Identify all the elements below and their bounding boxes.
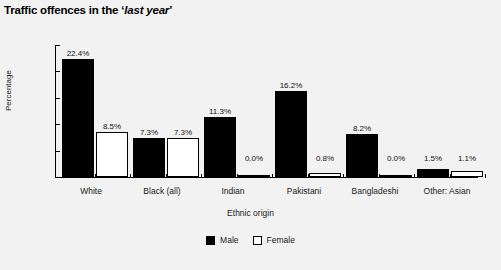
bar-otherasian-female[interactable]: [451, 171, 483, 177]
bar-label-indian-male: 11.3%: [198, 107, 242, 116]
chart-figure: Traffic offences in the ‘last year’ Perc…: [0, 0, 501, 270]
y-axis-title: Percentage: [4, 70, 13, 111]
x-tick-2: [166, 174, 167, 178]
x-tick-6: [308, 174, 309, 178]
x-axis-title: Ethnic origin: [0, 208, 501, 218]
category-label-otherasian: Other: Asian: [409, 186, 485, 196]
legend-swatch-female-icon: [253, 236, 262, 245]
category-label-white: White: [54, 186, 128, 196]
plot-area: 0% 5% 10% 15% 20% 25% 22.4% 8.5% 7.3% 7.…: [55, 45, 478, 178]
x-tick-4: [237, 174, 238, 178]
bar-label-black-female: 7.3%: [161, 128, 205, 137]
bar-black-female[interactable]: [167, 138, 199, 177]
chart-legend: Male Female: [0, 235, 501, 245]
bar-label-otherasian-female: 1.1%: [445, 154, 489, 163]
chart-title-quote-close: ’: [169, 4, 172, 16]
category-label-bangladeshi: Bangladeshi: [338, 186, 412, 196]
bar-series-container: 22.4% 8.5% 7.3% 7.3% 11.3% 0.0% 16.2% 0.…: [56, 45, 478, 177]
legend-swatch-male-icon: [206, 236, 215, 245]
category-label-black: Black (all): [125, 186, 199, 196]
x-tick-0: [95, 174, 96, 178]
bar-pakistani-female[interactable]: [309, 173, 341, 177]
page-title: Traffic offences in the ‘last year’: [4, 4, 172, 16]
bar-label-pakistani-female: 0.8%: [303, 154, 347, 163]
x-tick-11: [485, 174, 486, 178]
bar-pakistani-male[interactable]: [275, 91, 307, 177]
chart-title-emphasis: last year: [124, 4, 169, 16]
bar-white-male[interactable]: [62, 59, 94, 177]
x-tick-1: [130, 174, 131, 178]
x-tick-7: [343, 174, 344, 178]
legend-label-male: Male: [220, 235, 238, 245]
legend-item-male[interactable]: Male: [206, 235, 238, 245]
x-tick-3: [201, 174, 202, 178]
chart-title-prefix: Traffic offences in the: [4, 4, 121, 16]
bar-label-pakistani-male: 16.2%: [269, 81, 313, 90]
x-tick-8: [379, 174, 380, 178]
category-label-indian: Indian: [196, 186, 270, 196]
x-tick-5: [272, 174, 273, 178]
bar-white-female[interactable]: [96, 132, 128, 177]
legend-item-female[interactable]: Female: [253, 235, 295, 245]
y-tick-0: 0%: [55, 177, 60, 178]
bar-black-male[interactable]: [133, 138, 165, 177]
bar-indian-male[interactable]: [204, 117, 236, 177]
bar-label-indian-female: 0.0%: [232, 154, 276, 163]
x-tick-9: [414, 174, 415, 178]
bar-indian-female[interactable]: [238, 175, 270, 177]
bar-label-bangladeshi-male: 8.2%: [340, 124, 384, 133]
x-tick-10: [450, 174, 451, 178]
bar-label-white-male: 22.4%: [56, 49, 100, 58]
category-label-pakistani: Pakistani: [267, 186, 341, 196]
bar-otherasian-male[interactable]: [417, 169, 449, 177]
bar-bangladeshi-female[interactable]: [380, 175, 412, 177]
legend-label-female: Female: [267, 235, 295, 245]
